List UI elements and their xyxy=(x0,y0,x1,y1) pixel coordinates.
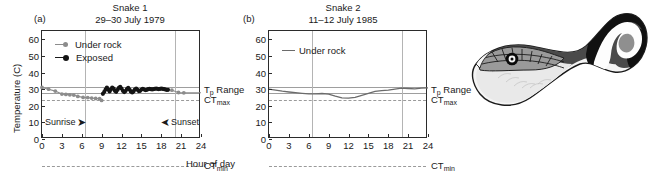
panel-b-title-line1: Snake 2 xyxy=(268,2,418,14)
ctmin-line-b xyxy=(269,166,426,167)
legend-line-icon xyxy=(282,50,295,51)
legend-a-item-under-rock: Under rock xyxy=(55,39,121,50)
figure-root: Snake 1 29–30 July 1979 (a) Temperature … xyxy=(0,0,653,178)
annotation-sunset-label: Sunset xyxy=(171,117,199,127)
under-rock-line-b xyxy=(269,88,428,98)
panel-b-title-line2: 11–12 July 1985 xyxy=(268,14,418,26)
panel-a-plot-area: Under rock Exposed Sunrise ➤ ➤ Sunset 0 … xyxy=(41,30,200,138)
legend-a-label-0: Under rock xyxy=(75,39,121,50)
legend-dot-icon xyxy=(63,42,68,47)
snake-illustration xyxy=(468,2,653,162)
panel-a: Snake 1 29–30 July 1979 (a) Temperature … xyxy=(0,0,225,178)
annotation-sunrise: Sunrise ➤ xyxy=(45,117,86,127)
panel-b-tag: (b) xyxy=(243,13,255,24)
tp-range-label-b: Tp Range xyxy=(431,83,471,96)
under-rock-morning-markers xyxy=(40,86,103,103)
y-axis-label: Temperature (C) xyxy=(11,64,22,133)
x-axis-label: Hour of day xyxy=(186,158,235,169)
exposed-markers xyxy=(101,85,170,96)
tp-rest: Range xyxy=(441,83,472,94)
legend-a-item-exposed: Exposed xyxy=(55,52,113,63)
annotation-sunset: ➤ Sunset xyxy=(161,117,199,127)
legend-b-item-under-rock: Under rock xyxy=(282,45,345,56)
panel-a-tag: (a) xyxy=(34,13,46,24)
panel-b-plot-area: Under rock 0 10 20 30 40 50 60 0 3 6 9 1… xyxy=(268,30,427,138)
under-rock-evening-markers xyxy=(170,88,186,94)
snake-eye xyxy=(506,53,519,66)
annotation-sunrise-label: Sunrise xyxy=(45,117,76,127)
arrow-left-icon: ➤ xyxy=(161,118,170,127)
legend-dot-icon xyxy=(63,55,69,61)
panel-a-title: Snake 1 29–30 July 1979 xyxy=(55,2,205,25)
ctmin-line-a xyxy=(42,166,199,167)
under-rock-evening-line xyxy=(172,90,201,93)
panel-b: Snake 2 11–12 July 1985 (b) Under rock 0… xyxy=(228,0,468,178)
legend-a-label-1: Exposed xyxy=(76,52,113,63)
arrow-right-icon: ➤ xyxy=(77,118,86,127)
ctmax-sub: max xyxy=(444,100,457,107)
ctmin-sub: min xyxy=(444,165,455,172)
ctmin-label-b: CTmin xyxy=(431,159,455,172)
panel-b-title: Snake 2 11–12 July 1985 xyxy=(268,2,418,25)
legend-b-label-0: Under rock xyxy=(299,45,345,56)
panel-a-title-line2: 29–30 July 1979 xyxy=(55,14,205,26)
ctmin-text: CT xyxy=(431,159,444,170)
panel-a-title-line1: Snake 1 xyxy=(55,2,205,14)
